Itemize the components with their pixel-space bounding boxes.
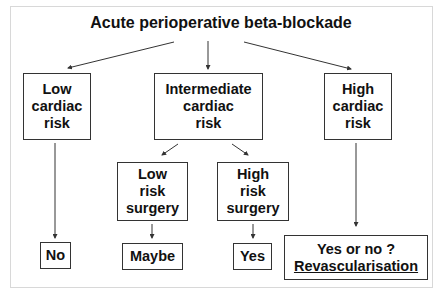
outcome-label: Maybe bbox=[123, 248, 182, 265]
outcome-yes-or-no: Yes or no ? Revascularisation bbox=[284, 235, 428, 280]
node-label: High bbox=[218, 166, 288, 183]
node-label: Low bbox=[24, 81, 90, 98]
outcome-label: No bbox=[41, 247, 70, 264]
node-high-risk-surgery: High risk surgery bbox=[217, 162, 289, 221]
node-label: surgery bbox=[118, 200, 187, 217]
outcome-yes: Yes bbox=[233, 243, 272, 270]
node-label: High bbox=[325, 81, 391, 98]
outcome-label: Yes or no ? bbox=[285, 241, 427, 258]
node-label: cardiac bbox=[24, 98, 90, 115]
node-label: risk bbox=[24, 115, 90, 132]
outcome-no: No bbox=[40, 242, 71, 269]
node-high-cardiac-risk: High cardiac risk bbox=[324, 73, 392, 140]
node-label: risk bbox=[218, 183, 288, 200]
node-label: risk bbox=[118, 183, 187, 200]
outcome-maybe: Maybe bbox=[122, 243, 183, 270]
node-label: risk bbox=[155, 115, 262, 132]
node-label: cardiac bbox=[155, 98, 262, 115]
node-label: Intermediate bbox=[155, 81, 262, 98]
node-label: Low bbox=[118, 166, 187, 183]
outcome-label: Yes bbox=[234, 248, 271, 265]
revascularisation-label: Revascularisation bbox=[285, 258, 427, 275]
node-label: surgery bbox=[218, 200, 288, 217]
node-label: cardiac bbox=[325, 98, 391, 115]
node-low-cardiac-risk: Low cardiac risk bbox=[23, 73, 91, 140]
node-low-risk-surgery: Low risk surgery bbox=[117, 162, 188, 221]
node-intermediate-cardiac-risk: Intermediate cardiac risk bbox=[154, 73, 263, 140]
node-label: risk bbox=[325, 115, 391, 132]
